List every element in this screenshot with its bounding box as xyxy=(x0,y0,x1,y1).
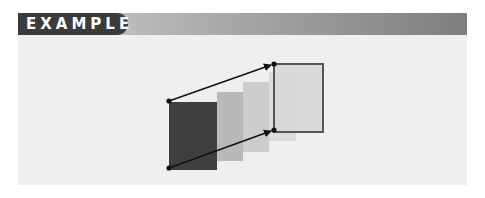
dot-source-top xyxy=(166,98,171,103)
dot-target-bottom xyxy=(271,127,276,132)
dot-source-bottom xyxy=(166,165,171,170)
intermediate-rect-1 xyxy=(217,92,243,161)
intermediate-rect-2 xyxy=(243,82,269,152)
dot-target-top xyxy=(271,61,276,66)
projection-diagram xyxy=(0,0,485,198)
target-rect xyxy=(274,64,323,132)
